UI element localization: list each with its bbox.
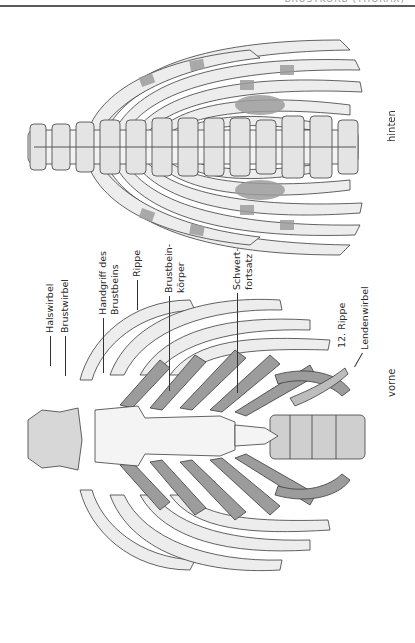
rib-cage-posterior-illustration xyxy=(20,20,375,275)
leader-rippe xyxy=(137,280,138,310)
label-12-rippe: 12. Rippe xyxy=(336,303,348,348)
label-brustwirbel: Brustwirbel xyxy=(59,279,71,333)
leader-schwertfortsatz xyxy=(237,293,238,393)
view-label-posterior: hinten xyxy=(386,110,397,142)
header-rule xyxy=(0,5,415,7)
label-halswirbel: Halswirbel xyxy=(44,284,56,333)
label-schwertfortsatz: Schwert- fortsatz xyxy=(231,248,255,290)
leader-handgriff xyxy=(103,318,104,373)
anterior-ribcage-svg xyxy=(20,280,375,640)
leader-brustwirbel xyxy=(65,336,66,376)
label-lendenwirbel: Lendenwirbel xyxy=(359,286,371,350)
header-title: BRUSTKORB (THORAX) xyxy=(284,0,405,4)
rib-cage-anterior-illustration xyxy=(20,280,375,640)
leader-halswirbel xyxy=(50,336,51,366)
leader-brustbeinkoerper xyxy=(169,296,170,391)
label-brustbeinkoerper: Brustbein- körper xyxy=(163,244,187,293)
posterior-ribcage-svg xyxy=(20,20,375,275)
view-label-anterior: vorne xyxy=(386,369,397,397)
label-handgriff-des-brustbeins: Handgriff des Brustbeins xyxy=(97,251,121,315)
label-rippe: Rippe xyxy=(131,250,143,277)
